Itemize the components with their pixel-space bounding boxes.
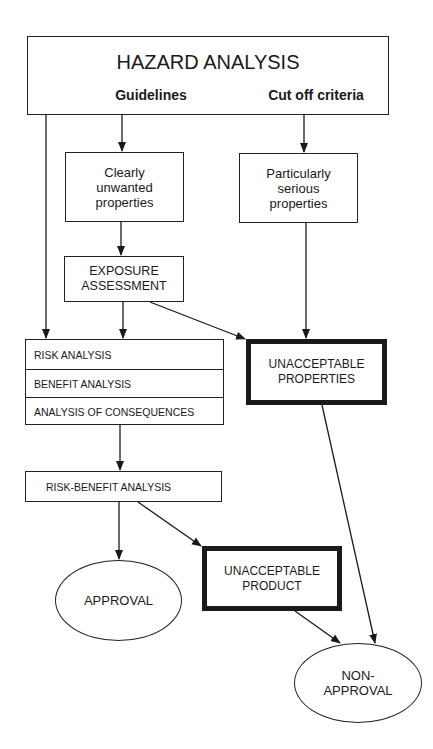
analysis-of-consequences-row: ANALYSIS OF CONSEQUENCES [26,398,223,425]
node-text: Clearly [104,165,144,180]
node-text: APPROVAL [84,593,153,608]
node-text: PRODUCT [242,579,301,594]
particularly-serious-properties-box: Particularly serious properties [239,153,358,223]
exposure-assessment-box: EXPOSURE ASSESSMENT [64,256,184,302]
hazard-analysis-box: HAZARD ANALYSIS Guidelines Cut off crite… [27,36,389,115]
approval-ellipse: APPROVAL [55,560,182,641]
node-text: RISK-BENEFIT ANALYSIS [46,481,171,493]
node-text: UNACCEPTABLE [269,357,365,372]
hazard-analysis-title: HAZARD ANALYSIS [28,51,388,74]
benefit-analysis-row: BENEFIT ANALYSIS [26,370,223,398]
node-text: EXPOSURE [89,264,158,279]
unacceptable-product-box: UNACCEPTABLE PRODUCT [202,546,342,611]
node-text: properties [270,196,328,211]
node-text: UNACCEPTABLE [224,564,320,579]
risk-benefit-analysis-box: RISK-BENEFIT ANALYSIS [25,471,222,502]
node-text: serious [278,181,320,196]
clearly-unwanted-properties-box: Clearly unwanted properties [65,152,184,222]
node-text: NON- [341,668,374,683]
non-approval-ellipse: NON- APPROVAL [294,643,422,723]
node-text: unwanted [96,180,152,195]
node-text: APPROVAL [323,683,392,698]
analysis-stack-box: RISK ANALYSIS BENEFIT ANALYSIS ANALYSIS … [25,339,224,425]
guidelines-label: Guidelines [80,87,222,103]
risk-analysis-row: RISK ANALYSIS [26,340,223,370]
node-text: properties [96,195,154,210]
node-text: Particularly [266,166,330,181]
node-text: ASSESSMENT [81,279,166,294]
node-text: PROPERTIES [278,372,355,387]
unacceptable-properties-box: UNACCEPTABLE PROPERTIES [246,339,387,405]
cut-off-criteria-label: Cut off criteria [246,87,386,103]
